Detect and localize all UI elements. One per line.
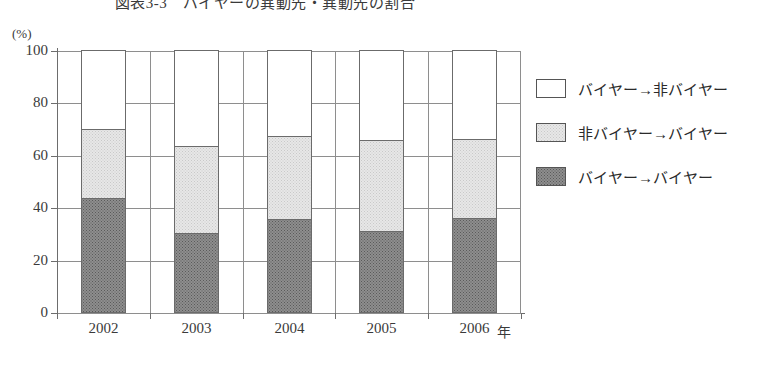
bar-segment[interactable] xyxy=(174,50,219,147)
legend-item[interactable]: バイヤー→バイヤー xyxy=(536,154,776,198)
plot-area xyxy=(57,51,521,313)
x-axis-tick-label: 2004 xyxy=(250,320,330,337)
x-axis-tick xyxy=(150,313,151,319)
x-axis-tick-end xyxy=(521,313,522,319)
gridline-x xyxy=(150,51,151,313)
bar-group[interactable] xyxy=(81,51,126,313)
x-axis-tick xyxy=(335,313,336,319)
bar-segment[interactable] xyxy=(359,231,404,313)
y-axis-tick-label: 80 xyxy=(8,94,48,111)
bar-segment[interactable] xyxy=(452,139,497,219)
y-axis-tick-label: 0 xyxy=(8,304,48,321)
y-axis-tick-label: 100 xyxy=(8,42,48,59)
x-axis-tick xyxy=(57,313,58,319)
bar-segment[interactable] xyxy=(174,146,219,235)
gridline-x xyxy=(428,51,429,313)
y-axis-tick-label: 40 xyxy=(8,199,48,216)
bar-segment[interactable] xyxy=(359,140,404,231)
bar-segment[interactable] xyxy=(81,50,126,130)
chart-legend: バイヤー→非バイヤー非バイヤー→バイヤーバイヤー→バイヤー xyxy=(536,66,776,198)
x-axis-tick-label: 2003 xyxy=(157,320,237,337)
bar-group[interactable] xyxy=(267,51,312,313)
bar-segment[interactable] xyxy=(267,136,312,220)
bar-segment[interactable] xyxy=(81,129,126,199)
legend-item-label: バイヤー→非バイヤー xyxy=(578,78,728,99)
legend-item[interactable]: 非バイヤー→バイヤー xyxy=(536,110,776,154)
bar-segment[interactable] xyxy=(81,198,126,313)
y-axis-tick xyxy=(51,156,58,157)
bar-segment[interactable] xyxy=(267,219,312,313)
gridline-y xyxy=(57,313,521,314)
bar-group[interactable] xyxy=(359,51,404,313)
white-square-icon xyxy=(536,79,566,98)
bar-segment[interactable] xyxy=(267,50,312,137)
gridline-x xyxy=(335,51,336,313)
legend-item-label: 非バイヤー→バイヤー xyxy=(578,122,728,143)
bar-segment[interactable] xyxy=(174,233,219,313)
x-axis-tick-label: 2002 xyxy=(64,320,144,337)
y-axis-tick xyxy=(51,103,58,104)
y-axis-unit-label: (%) xyxy=(12,26,32,42)
light-gray-square-icon xyxy=(536,123,566,142)
page-title: 図表3-3 バイヤーの異動先・異動先の割合 xyxy=(0,0,530,12)
y-axis-labels: 020406080100 xyxy=(0,51,48,313)
y-axis-tick xyxy=(51,208,58,209)
bar-segment[interactable] xyxy=(452,50,497,140)
bar-group[interactable] xyxy=(452,51,497,313)
y-axis-tick-label: 20 xyxy=(8,252,48,269)
dark-gray-square-icon xyxy=(536,167,566,186)
x-axis-tick xyxy=(428,313,429,319)
bar-group[interactable] xyxy=(174,51,219,313)
y-axis-tick-label: 60 xyxy=(8,147,48,164)
legend-item-label: バイヤー→バイヤー xyxy=(578,166,713,187)
x-axis-unit-label: 年 xyxy=(497,321,511,341)
x-axis-tick-label: 2005 xyxy=(342,320,422,337)
legend-item[interactable]: バイヤー→非バイヤー xyxy=(536,66,776,110)
x-axis-tick xyxy=(243,313,244,319)
y-axis-tick xyxy=(51,51,58,52)
bar-segment[interactable] xyxy=(359,50,404,141)
y-axis-tick xyxy=(51,261,58,262)
gridline-x-right xyxy=(520,51,521,313)
bar-segment[interactable] xyxy=(452,218,497,313)
gridline-x xyxy=(243,51,244,313)
